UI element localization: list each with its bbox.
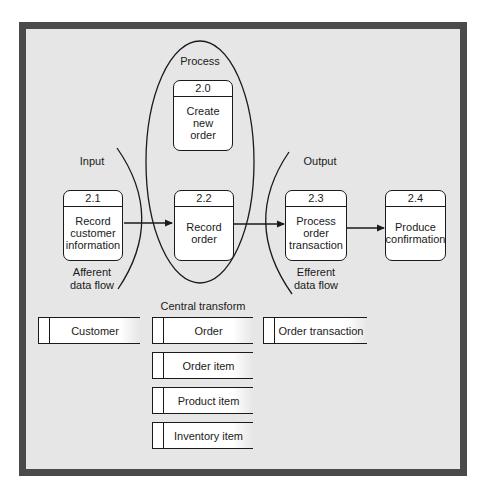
data-store-name: Customer: [50, 318, 140, 343]
data-store-name: Order: [164, 318, 253, 343]
process-id: 2.3: [286, 191, 346, 207]
output-region-label: Output: [295, 155, 345, 168]
data-store-order-item[interactable]: Order item: [152, 352, 253, 379]
data-store-order[interactable]: Order: [152, 317, 253, 344]
data-store-product-item[interactable]: Product item: [152, 387, 253, 414]
process-name: Record customer information: [64, 206, 122, 260]
data-store-customer[interactable]: Customer: [38, 317, 140, 344]
data-store-inventory-item[interactable]: Inventory item: [152, 422, 253, 449]
data-store-id-cell: [153, 388, 164, 413]
data-store-name: Order transaction: [275, 318, 367, 343]
process-region-label: Process: [170, 55, 230, 68]
data-store-id-cell: [153, 353, 164, 378]
process-name: Process order transaction: [286, 206, 346, 260]
process-2-1[interactable]: 2.1 Record customer information: [63, 190, 123, 261]
data-store-name: Order item: [164, 353, 253, 378]
efferent-data-flow-label: Efferent data flow: [286, 266, 346, 292]
process-2-0[interactable]: 2.0 Create new order: [173, 80, 233, 151]
data-store-id-cell: [153, 318, 164, 343]
process-id: 2.1: [64, 191, 122, 207]
process-id: 2.2: [175, 191, 233, 207]
process-id: 2.0: [174, 81, 232, 97]
central-transform-label: Central transform: [148, 300, 258, 313]
data-store-id-cell: [264, 318, 275, 343]
data-store-order-transaction[interactable]: Order transaction: [263, 317, 367, 344]
process-2-2[interactable]: 2.2 Record order: [174, 190, 234, 261]
afferent-data-flow-label: Afferent data flow: [62, 266, 122, 292]
process-2-3[interactable]: 2.3 Process order transaction: [285, 190, 347, 261]
data-store-id-cell: [39, 318, 50, 343]
data-store-id-cell: [153, 423, 164, 448]
process-name: Produce confirmation: [386, 206, 445, 260]
process-name: Create new order: [174, 96, 232, 150]
process-id: 2.4: [386, 191, 445, 207]
data-store-name: Product item: [164, 388, 253, 413]
process-2-4[interactable]: 2.4 Produce confirmation: [385, 190, 446, 261]
data-store-name: Inventory item: [164, 423, 253, 448]
input-region-label: Input: [72, 155, 112, 168]
process-name: Record order: [175, 206, 233, 260]
